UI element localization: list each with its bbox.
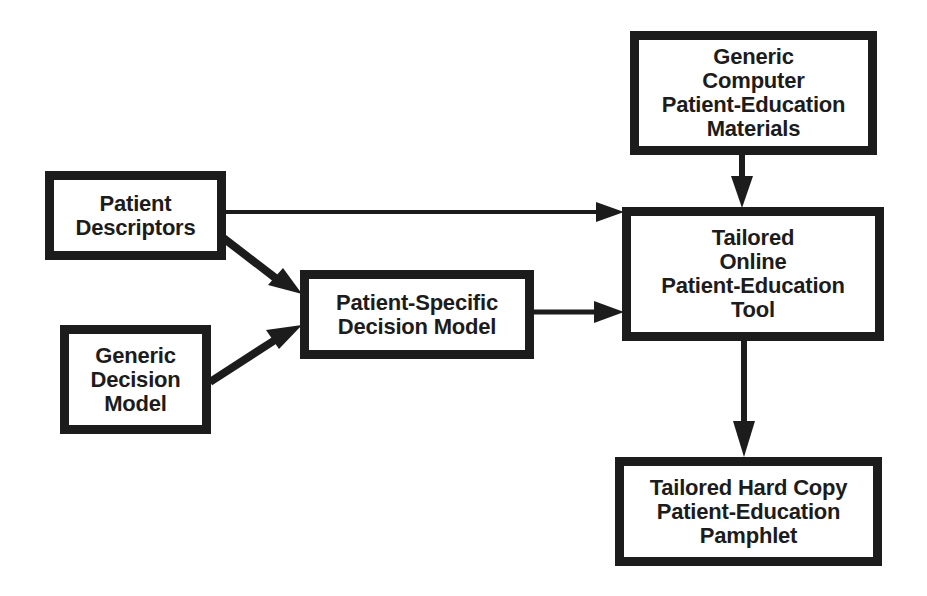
node-generic-decision-model: Generic Decision Model <box>60 325 211 434</box>
node-patient-specific-decision-model: Patient-Specific Decision Model <box>300 270 534 359</box>
node-label: Generic Decision Model <box>90 344 180 416</box>
arrow-online-tool-to-pamphlet <box>733 340 755 457</box>
node-label: Generic Computer Patient-Education Mater… <box>662 45 846 141</box>
arrow-specific-model-to-online-tool <box>533 301 624 323</box>
node-tailored-hard-copy-pamphlet: Tailored Hard Copy Patient-Education Pam… <box>615 457 882 566</box>
node-label: Patient-Specific Decision Model <box>336 291 498 339</box>
arrow-descriptors-to-specific-model <box>222 237 302 294</box>
node-tailored-online-tool: Tailored Online Patient-Education Tool <box>622 207 884 341</box>
arrow-descriptors-to-online-tool <box>225 202 624 222</box>
node-label: Tailored Hard Copy Patient-Education Pam… <box>650 476 848 548</box>
node-generic-computer-materials: Generic Computer Patient-Education Mater… <box>630 31 877 155</box>
node-label: Patient Descriptors <box>75 192 195 240</box>
arrow-generic-model-to-specific-model <box>210 325 302 382</box>
node-patient-descriptors: Patient Descriptors <box>45 171 226 260</box>
arrow-materials-to-online-tool <box>731 154 753 208</box>
node-label: Tailored Online Patient-Education Tool <box>661 226 845 322</box>
